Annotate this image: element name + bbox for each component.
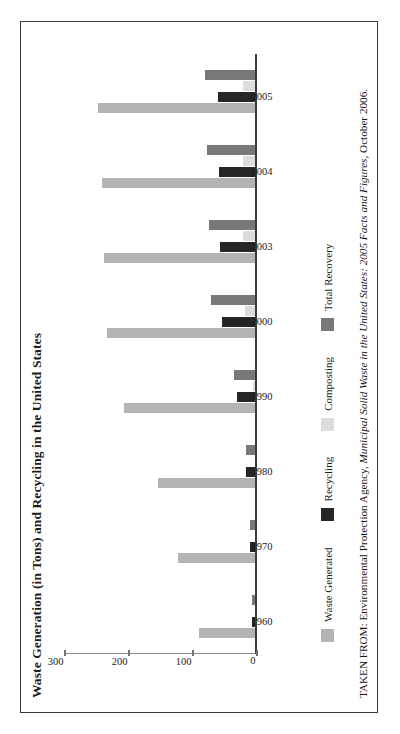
legend-swatch <box>321 418 334 431</box>
value-tick-label: 0 <box>250 656 255 667</box>
bar-group: 2005 <box>63 54 255 129</box>
category-label: 1990 <box>252 392 273 403</box>
legend-label: Recycling <box>322 457 334 502</box>
category-label: 1960 <box>252 617 273 628</box>
legend-label: Total Recovery <box>322 244 334 311</box>
chart-legend: Waste GeneratedRecyclingCompostingTotal … <box>321 244 334 642</box>
legend-item: Composting <box>321 357 334 431</box>
bar-group: 1990 <box>63 354 255 429</box>
bar <box>245 306 255 316</box>
bar <box>158 478 255 488</box>
category-label: 2000 <box>252 317 273 328</box>
bar <box>218 92 255 102</box>
bar <box>243 156 256 166</box>
bar <box>243 81 256 91</box>
category-label: 2003 <box>252 242 273 253</box>
bar <box>205 70 256 80</box>
figure-frame: Waste Generation (in Tons) and Recycling… <box>20 21 378 713</box>
bar-group: 1980 <box>63 429 255 504</box>
legend-swatch <box>321 318 334 331</box>
bar <box>209 220 255 230</box>
bar <box>207 145 256 155</box>
bar-group: 1970 <box>63 504 255 579</box>
bar <box>178 553 255 563</box>
bar-group: 1960 <box>63 579 255 654</box>
legend-item: Waste Generated <box>321 547 334 642</box>
bar <box>234 370 255 380</box>
category-axis-line <box>255 54 257 654</box>
source-prefix: TAKEN FROM: Environmental Protection Age… <box>357 463 369 698</box>
bar <box>199 628 255 638</box>
bar <box>250 520 255 530</box>
bar <box>211 295 255 305</box>
value-tick-label: 200 <box>112 656 128 667</box>
bar <box>107 328 255 338</box>
legend-swatch <box>321 508 334 521</box>
source-publication-title: Municipal Solid Waste in the United Stat… <box>357 156 369 464</box>
category-label: 1970 <box>252 542 273 553</box>
source-note: TAKEN FROM: Environmental Protection Age… <box>355 38 371 698</box>
legend-swatch <box>321 629 334 642</box>
value-tick <box>256 650 257 656</box>
bar <box>222 317 256 327</box>
bar <box>102 178 255 188</box>
category-label: 2005 <box>252 92 273 103</box>
chart-title: Waste Generation (in Tons) and Recycling… <box>29 333 45 698</box>
bar <box>219 167 255 177</box>
bar-group: 2004 <box>63 129 255 204</box>
bar <box>98 103 255 113</box>
bar <box>243 231 255 241</box>
legend-label: Waste Generated <box>322 547 334 622</box>
bar <box>253 381 256 391</box>
rotated-figure-stage: Waste Generation (in Tons) and Recycling… <box>21 22 377 712</box>
legend-item: Total Recovery <box>321 244 334 331</box>
bar-group: 2000 <box>63 279 255 354</box>
bar <box>124 403 255 413</box>
legend-label: Composting <box>322 357 334 411</box>
bar <box>246 445 255 455</box>
category-label: 1980 <box>252 467 273 478</box>
source-suffix: October 2006. <box>357 89 369 156</box>
category-label: 2004 <box>252 167 273 178</box>
bar <box>252 595 256 605</box>
value-tick-label: 100 <box>176 656 192 667</box>
value-tick-label: 300 <box>48 656 64 667</box>
bar <box>104 253 255 263</box>
plot-area: 0100200300 19601970198019902000200320042… <box>65 54 257 654</box>
legend-item: Recycling <box>321 457 334 522</box>
bar-group: 2003 <box>63 204 255 279</box>
bar <box>220 242 255 252</box>
